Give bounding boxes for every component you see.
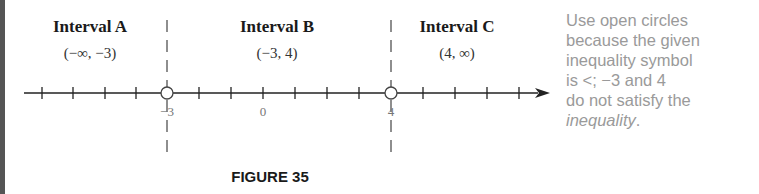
note-line: do not satisfy the: [566, 90, 758, 110]
interval-c-range: (4, ∞): [439, 45, 475, 62]
interval-a-range: (−∞, −3): [64, 45, 117, 62]
note-line: Use open circles: [566, 10, 758, 30]
open-circle-4: [385, 87, 397, 99]
figure-caption: FIGURE 35: [210, 168, 330, 185]
interval-b-range: (−3, 4): [257, 45, 298, 62]
tick-label-minus3: −3: [160, 104, 174, 119]
open-circle-minus3: [161, 87, 173, 99]
note-period: .: [636, 111, 641, 129]
interval-c-title: Interval C: [419, 17, 494, 36]
number-line-figure: Interval A (−∞, −3) Interval B (−3, 4) I…: [0, 0, 560, 194]
note-line: is <; −3 and 4: [566, 70, 758, 90]
margin-note: Use open circles because the given inequ…: [566, 10, 758, 130]
interval-b-title: Interval B: [240, 17, 314, 36]
note-line: because the given: [566, 30, 758, 50]
interval-a-title: Interval A: [53, 17, 128, 36]
note-line-last: inequality.: [566, 110, 758, 130]
note-line: inequality symbol: [566, 50, 758, 70]
tick-label-0: 0: [260, 104, 267, 119]
tick-label-4: 4: [388, 104, 395, 119]
note-italic-word: inequality: [566, 111, 636, 129]
